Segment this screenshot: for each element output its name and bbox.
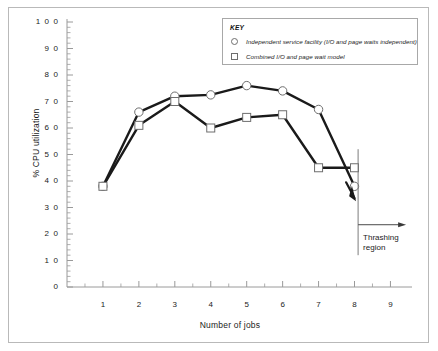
data-point-circle <box>135 108 143 116</box>
legend-box: KEY Independent service facility (I/O an… <box>222 18 418 65</box>
x-tick-label: 5 <box>237 300 257 309</box>
legend-square-marker-icon <box>230 51 241 61</box>
y-tick-label: 1 0 <box>29 256 59 265</box>
legend-entry-square: Combined I/O and page wait model <box>230 51 411 61</box>
thrashing-region-label: Thrashing region <box>363 233 399 254</box>
thrashing-line-1: Thrashing <box>363 233 399 244</box>
y-tick-label: 3 0 <box>29 203 59 212</box>
x-tick-label: 4 <box>201 300 221 309</box>
x-tick-label: 2 <box>129 300 149 309</box>
thrashing-arrow-head <box>398 222 406 227</box>
data-point-square <box>279 111 287 119</box>
y-tick-label: 0 <box>29 282 59 291</box>
legend-title: KEY <box>230 24 411 31</box>
x-axis-title: Number of jobs <box>60 320 400 330</box>
x-tick-label: 9 <box>380 300 400 309</box>
legend-entry-circle: Independent service facility (I/O and pa… <box>230 36 411 46</box>
data-point-square <box>99 182 107 190</box>
x-tick-label: 6 <box>273 300 293 309</box>
data-point-square <box>315 164 323 172</box>
data-point-square <box>135 121 143 129</box>
y-tick-label: 9 0 <box>29 44 59 53</box>
data-point-square <box>207 124 215 132</box>
y-axis-title: % CPU utilization <box>31 83 41 203</box>
y-tick-label: 1 0 0 <box>29 17 59 26</box>
legend-entry-label: Combined I/O and page wait model <box>246 53 345 60</box>
x-tick-label: 8 <box>345 300 365 309</box>
x-tick-label: 7 <box>309 300 329 309</box>
data-point-circle <box>278 87 286 95</box>
data-point-circle <box>242 81 250 89</box>
data-point-circle <box>207 91 215 99</box>
legend-entry-label: Independent service facility (I/O and pa… <box>246 38 417 45</box>
y-tick-label: 2 0 <box>29 229 59 238</box>
thrashing-line-2: region <box>363 243 399 254</box>
series-layer <box>99 81 359 190</box>
data-point-square <box>243 113 251 121</box>
data-point-square <box>171 98 179 106</box>
x-tick-label: 1 <box>93 300 113 309</box>
data-point-circle <box>314 105 322 113</box>
chart-figure: 01 02 03 04 05 06 07 08 09 01 0 0 123456… <box>0 0 438 351</box>
x-tick-label: 3 <box>165 300 185 309</box>
y-tick-label: 8 0 <box>29 70 59 79</box>
legend-circle-marker-icon <box>230 36 241 46</box>
data-point-square <box>351 164 359 172</box>
